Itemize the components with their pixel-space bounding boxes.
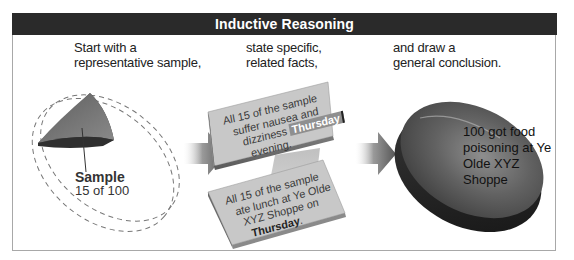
conclusion-line: 100 got food [463, 124, 551, 140]
sample-wedge-icon [38, 93, 114, 172]
sample-count: 15 of 100 [75, 183, 129, 198]
conclusion-line: poisoning at Ye [463, 140, 551, 156]
sample-title: Sample [75, 170, 129, 184]
conclusion-text: 100 got food poisoning at Ye Olde XYZ Sh… [463, 124, 551, 188]
conclusion-line: Shoppe [463, 172, 551, 188]
conclusion-line: Olde XYZ [463, 156, 551, 172]
arrow-right-icon [355, 132, 396, 175]
sample-label: Sample 15 of 100 [75, 170, 129, 198]
population-outline-icon [6, 69, 203, 259]
